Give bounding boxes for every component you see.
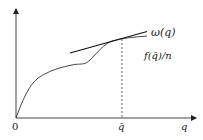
tangent-line (70, 32, 147, 54)
x-axis-label: q (181, 121, 187, 132)
origin-label: 0 (12, 121, 18, 132)
q-bar-label: q̄ (118, 121, 124, 132)
curve-label: ω(q) (151, 26, 176, 39)
omega-curve (16, 36, 147, 118)
diagram-canvas: ω(q) f(q̄)/n 0 q̄ q (0, 0, 203, 140)
tangent-label: f(q̄)/n (143, 50, 172, 61)
